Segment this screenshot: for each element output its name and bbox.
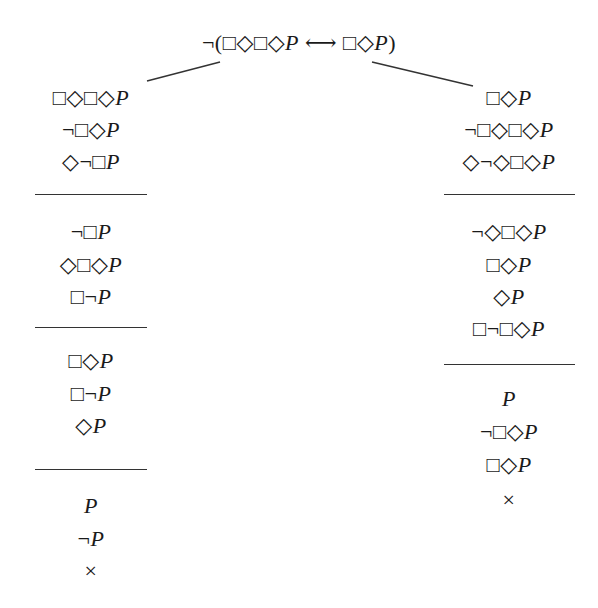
right-step-rule — [444, 364, 575, 365]
right-formula: □¬□◇P — [473, 316, 545, 342]
proposition-variable: P — [518, 85, 532, 110]
proposition-variable: P — [90, 526, 104, 551]
proposition-variable: P — [518, 252, 532, 277]
proposition-variable: P — [511, 284, 525, 309]
proposition-variable: P — [93, 413, 107, 438]
right-branch-line — [372, 62, 473, 86]
left-step-rule — [35, 469, 147, 470]
right-formula: ¬□◇□◇P — [464, 117, 553, 143]
left-formula: □◇□◇P — [53, 85, 129, 111]
left-formula: P — [84, 493, 98, 519]
right-formula: P — [502, 386, 516, 412]
left-formula: ◇¬□P — [62, 149, 120, 175]
proposition-variable: P — [106, 149, 120, 174]
proposition-variable: P — [97, 219, 111, 244]
left-step-rule — [35, 194, 147, 195]
left-formula: ◇P — [75, 413, 106, 439]
proposition-variable: P — [100, 348, 114, 373]
left-formula: □¬P — [71, 381, 112, 407]
left-closure-mark: × — [85, 558, 98, 584]
root-formula: ¬(□◇□◇P ⟷ □◇P) — [202, 30, 396, 56]
proposition-variable: P — [108, 252, 122, 277]
proposition-variable: P — [524, 419, 538, 444]
left-formula: □◇P — [68, 348, 113, 374]
proposition-variable: P — [502, 386, 516, 411]
left-branch-line — [147, 62, 220, 81]
right-formula: □◇P — [486, 452, 531, 478]
proposition-variable: P — [97, 284, 111, 309]
proposition-variable: P — [84, 493, 98, 518]
right-formula: ¬□◇P — [480, 419, 538, 445]
proposition-variable: P — [97, 381, 111, 406]
proposition-variable: P — [531, 316, 545, 341]
proposition-variable: P — [106, 117, 120, 142]
left-formula: ¬□P — [71, 219, 112, 245]
left-formula: □¬P — [71, 284, 112, 310]
right-closure-mark: × — [503, 487, 516, 513]
proposition-variable: P — [518, 452, 532, 477]
right-formula: ◇¬◇□◇P — [463, 149, 556, 175]
proposition-variable: P — [115, 85, 129, 110]
left-formula: ¬P — [78, 526, 105, 552]
left-formula: ¬□◇P — [62, 117, 120, 143]
proposition-variable: P — [542, 149, 556, 174]
right-formula: □◇P — [486, 252, 531, 278]
right-step-rule — [444, 194, 575, 195]
right-formula: □◇P — [486, 85, 531, 111]
proposition-variable: P — [540, 117, 554, 142]
proposition-variable: P — [374, 30, 388, 55]
left-formula: ◇□◇P — [60, 252, 123, 278]
proposition-variable: P — [533, 219, 547, 244]
left-step-rule — [35, 327, 147, 328]
proposition-variable: P — [285, 30, 299, 55]
right-formula: ¬◇□◇P — [471, 219, 547, 245]
right-formula: ◇P — [493, 284, 524, 310]
